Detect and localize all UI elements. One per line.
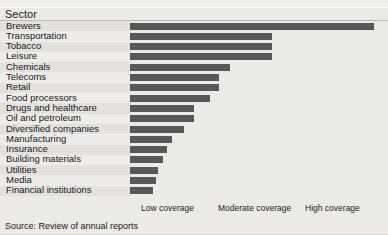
chart-row: Building materials: [0, 155, 388, 165]
bar: [130, 23, 374, 30]
column-header-sector: Sector: [5, 8, 37, 20]
category-label: Financial institutions: [6, 185, 92, 196]
source-note: Source: Review of annual reports: [5, 221, 138, 231]
bar: [130, 167, 158, 174]
bar: [130, 177, 156, 184]
bar: [130, 43, 272, 50]
x-axis-labels: Low coverage Moderate coverage High cove…: [0, 203, 388, 217]
bar: [130, 74, 219, 81]
bar: [130, 126, 184, 133]
bar: [130, 84, 219, 91]
bar: [130, 156, 163, 163]
chart-row: Chemicals: [0, 62, 388, 72]
chart-row: Tobacco: [0, 42, 388, 52]
bar: [130, 33, 272, 40]
bar: [130, 136, 172, 143]
x-tick-high-coverage: High coverage: [305, 203, 360, 213]
cropped-top-strip: [0, 0, 388, 7]
bar: [130, 115, 194, 122]
chart-row: Utilities: [0, 165, 388, 175]
chart-row: Financial institutions: [0, 186, 388, 196]
chart-row: Telecoms: [0, 73, 388, 83]
bar: [130, 64, 230, 71]
chart-row: Manufacturing: [0, 134, 388, 144]
bottom-divider: [0, 234, 388, 235]
x-tick-moderate-coverage: Moderate coverage: [218, 203, 291, 213]
plot-area: BrewersTransportationTobaccoLeisureChemi…: [0, 21, 388, 201]
bar: [130, 95, 210, 102]
top-divider: [0, 7, 388, 8]
chart-root: Sector BrewersTransportationTobaccoLeisu…: [0, 0, 388, 235]
bar: [130, 53, 272, 60]
x-tick-low-coverage: Low coverage: [141, 203, 194, 213]
chart-row: Leisure: [0, 52, 388, 62]
chart-row: Transportation: [0, 31, 388, 41]
bar: [130, 187, 153, 194]
bar: [130, 105, 194, 112]
bar: [130, 146, 167, 153]
